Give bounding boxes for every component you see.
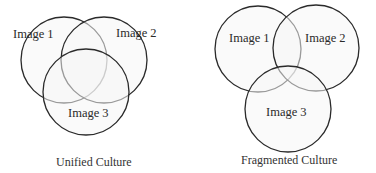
unified-culture-caption: Unified Culture [56,155,132,169]
fragmented-label-image-1: Image 1 [229,31,270,45]
fragmented-label-image-3: Image 3 [266,105,307,119]
fragmented-label-image-2: Image 2 [305,31,346,45]
fragmented-culture-caption: Fragmented Culture [241,153,337,167]
unified-circle-image-3 [43,49,129,135]
unified-label-image-3: Image 3 [68,106,109,120]
venn-diagrams: Image 1 Image 2 Image 3 Unified Culture … [0,0,376,173]
unified-culture-diagram: Image 1 Image 2 Image 3 Unified Culture [13,17,157,169]
unified-label-image-2: Image 2 [116,26,157,40]
fragmented-culture-diagram: Image 1 Image 2 Image 3 Fragmented Cultu… [215,5,359,167]
unified-label-image-1: Image 1 [13,27,54,41]
